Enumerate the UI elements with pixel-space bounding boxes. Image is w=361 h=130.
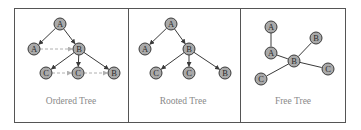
ordered-node-c: C bbox=[40, 67, 52, 79]
svg-text:B: B bbox=[313, 33, 319, 43]
svg-text:B: B bbox=[291, 56, 297, 66]
ordered-node-b: B bbox=[73, 43, 85, 55]
rooted-edge bbox=[161, 53, 184, 70]
ordered-tree-title: Ordered Tree bbox=[46, 96, 96, 106]
svg-text:C: C bbox=[75, 68, 81, 78]
free-edge bbox=[277, 55, 288, 59]
ordered-edge bbox=[64, 29, 75, 44]
ordered-node-c: C bbox=[72, 67, 84, 79]
free-edge bbox=[300, 62, 322, 67]
ordered-node-a: A bbox=[54, 18, 66, 30]
rooted-edge bbox=[175, 29, 186, 44]
svg-text:C: C bbox=[186, 68, 192, 78]
svg-text:A: A bbox=[57, 19, 64, 29]
free-edge bbox=[298, 43, 311, 57]
rooted-edge bbox=[194, 52, 220, 69]
free-edge bbox=[267, 64, 289, 76]
svg-text:A: A bbox=[142, 44, 149, 54]
svg-text:C: C bbox=[258, 74, 264, 84]
svg-text:C: C bbox=[325, 64, 331, 74]
svg-text:A: A bbox=[268, 22, 275, 32]
svg-text:B: B bbox=[222, 68, 228, 78]
ordered-edge bbox=[51, 53, 74, 70]
tree-types-diagram: AABCCBAABCCBAABBCC Ordered Tree Rooted T… bbox=[0, 0, 361, 130]
free-node-c: C bbox=[255, 73, 267, 85]
ordered-node-a: A bbox=[28, 43, 40, 55]
free-node-b: B bbox=[288, 55, 300, 67]
rooted-node-c: C bbox=[150, 67, 162, 79]
free-node-a: A bbox=[265, 47, 277, 59]
svg-text:B: B bbox=[186, 44, 192, 54]
ordered-edge bbox=[84, 52, 109, 69]
free-tree-title: Free Tree bbox=[275, 96, 311, 106]
free-node-c: C bbox=[322, 63, 334, 75]
rooted-tree-title: Rooted Tree bbox=[160, 96, 207, 106]
svg-text:C: C bbox=[43, 68, 49, 78]
svg-text:A: A bbox=[268, 48, 275, 58]
free-node-a: A bbox=[265, 21, 277, 33]
nodes-layer: AABCCBAABCCBAABBCC bbox=[28, 18, 334, 85]
rooted-node-b: B bbox=[183, 43, 195, 55]
svg-text:B: B bbox=[76, 44, 82, 54]
svg-text:A: A bbox=[168, 19, 175, 29]
ordered-edge bbox=[39, 28, 56, 44]
svg-text:A: A bbox=[31, 44, 38, 54]
rooted-node-b: B bbox=[219, 67, 231, 79]
free-node-b: B bbox=[310, 32, 322, 44]
svg-text:C: C bbox=[153, 68, 159, 78]
ordered-node-b: B bbox=[108, 67, 120, 79]
rooted-node-c: C bbox=[183, 67, 195, 79]
panel-titles: Ordered Tree Rooted Tree Free Tree bbox=[46, 96, 311, 106]
rooted-node-a: A bbox=[165, 18, 177, 30]
rooted-node-a: A bbox=[139, 43, 151, 55]
svg-text:B: B bbox=[111, 68, 117, 78]
rooted-edge bbox=[150, 28, 167, 44]
